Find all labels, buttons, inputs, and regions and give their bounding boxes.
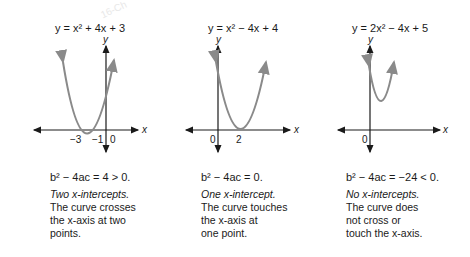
x-axis-label-3: x bbox=[443, 124, 448, 135]
tick-label-2: 2 bbox=[236, 134, 242, 145]
description-3: b² − 4ac = −24 < 0. No x-intercepts. The… bbox=[346, 171, 439, 240]
lead-2: One x-intercept. bbox=[201, 188, 287, 201]
tick-label-0: 0 bbox=[210, 134, 216, 145]
desc-3-line-3: touch the x-axis. bbox=[346, 227, 439, 240]
tick-label-neg1: −1 bbox=[92, 134, 103, 145]
desc-2-line-1: The curve touches bbox=[201, 201, 287, 214]
y-axis-label-1: y bbox=[103, 34, 108, 45]
desc-3-line-2: not cross or bbox=[346, 214, 439, 227]
desc-2-line-3: one point. bbox=[201, 227, 287, 240]
y-axis-label-3: y bbox=[368, 34, 373, 45]
discriminant-3: b² − 4ac = −24 < 0. bbox=[346, 171, 439, 184]
tick-label-0: 0 bbox=[362, 134, 368, 145]
tick-label-0: 0 bbox=[110, 134, 116, 145]
graph-3 bbox=[338, 46, 440, 152]
desc-2-line-2: the x-axis at bbox=[201, 214, 287, 227]
desc-1-line-1: The curve crosses bbox=[50, 201, 136, 214]
tick-label-neg3: −3 bbox=[70, 134, 81, 145]
equation-2: y = x² − 4x + 4 bbox=[208, 22, 278, 34]
equation-3: y = 2x² − 4x + 5 bbox=[352, 22, 428, 34]
discriminant-2: b² − 4ac = 0. bbox=[201, 171, 287, 184]
desc-1-line-2: the x-axis at two bbox=[50, 214, 136, 227]
x-axis-label-2: x bbox=[294, 124, 299, 135]
lead-3: No x-intercepts. bbox=[346, 188, 439, 201]
graph-1 bbox=[34, 46, 138, 152]
lead-1: Two x-intercepts. bbox=[50, 188, 136, 201]
discriminant-1: b² − 4ac = 4 > 0. bbox=[50, 171, 136, 184]
description-2: b² − 4ac = 0. One x-intercept. The curve… bbox=[201, 171, 287, 240]
desc-3-line-1: The curve does bbox=[346, 201, 439, 214]
description-1: b² − 4ac = 4 > 0. Two x-intercepts. The … bbox=[50, 171, 136, 240]
x-axis-label-1: x bbox=[142, 124, 147, 135]
y-axis-label-2: y bbox=[216, 34, 221, 45]
equation-1: y = x² + 4x + 3 bbox=[55, 22, 125, 34]
desc-1-line-3: points. bbox=[50, 227, 136, 240]
